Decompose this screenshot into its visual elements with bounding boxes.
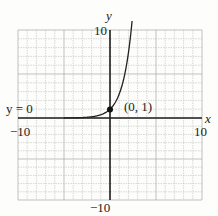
asymptote-label: y = 0 [6, 101, 33, 116]
y-axis-label: y [104, 8, 112, 23]
x-max-label: 10 [194, 124, 207, 139]
x-min-label: −10 [10, 124, 30, 139]
exponential-graph: y 10 −10 x −10 10 (0, 1) y = 0 [0, 0, 218, 216]
point-marker [107, 107, 113, 113]
y-min-label: −10 [90, 200, 110, 215]
point-label: (0, 1) [124, 99, 152, 114]
y-max-label: 10 [94, 23, 107, 38]
